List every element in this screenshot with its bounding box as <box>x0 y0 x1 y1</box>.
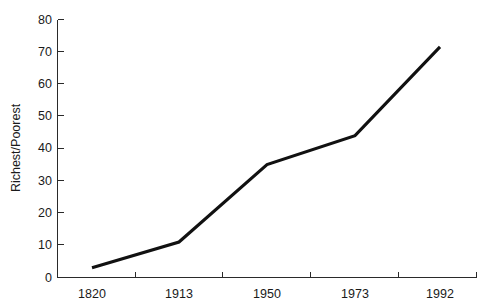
y-tick-label-0: 0 <box>45 271 52 285</box>
y-tick-label-70: 70 <box>38 45 52 59</box>
x-tick-label-1992: 1992 <box>426 287 454 301</box>
y-tick-label-50: 50 <box>38 109 52 123</box>
x-tick-label-1913: 1913 <box>165 287 193 301</box>
chart-background <box>0 0 494 308</box>
line-chart-canvas: 80 70 60 50 40 30 20 10 0 Richest/Poores… <box>0 0 494 308</box>
y-tick-label-30: 30 <box>38 174 52 188</box>
x-tick-label-1950: 1950 <box>253 287 281 301</box>
y-tick-label-80: 80 <box>38 13 52 27</box>
x-tick-label-1820: 1820 <box>78 287 106 301</box>
y-tick-label-10: 10 <box>38 238 52 252</box>
y-tick-label-40: 40 <box>38 141 52 155</box>
y-axis-tick-labels: 80 70 60 50 40 30 20 10 0 <box>38 13 52 285</box>
y-axis-title: Richest/Poorest <box>9 103 23 192</box>
x-tick-label-1973: 1973 <box>341 287 369 301</box>
y-tick-label-20: 20 <box>38 206 52 220</box>
chart-figure: 80 70 60 50 40 30 20 10 0 Richest/Poores… <box>0 0 494 308</box>
y-tick-label-60: 60 <box>38 77 52 91</box>
